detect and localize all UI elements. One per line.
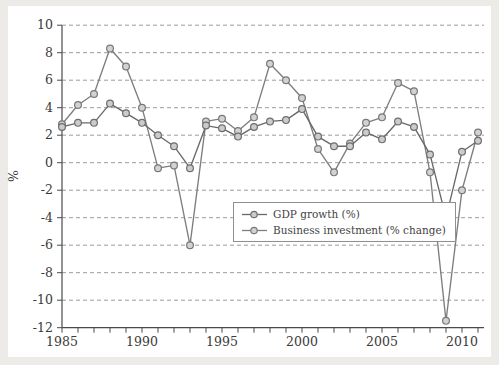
legend-label: Business investment (% change) bbox=[273, 224, 446, 236]
data-point-gdp-growth bbox=[347, 143, 354, 150]
legend-item-gdp-growth: GDP growth (%) bbox=[241, 207, 446, 221]
data-point-business-investment bbox=[459, 187, 466, 194]
data-point-gdp-growth bbox=[123, 110, 130, 117]
data-point-gdp-growth bbox=[363, 129, 370, 136]
data-point-gdp-growth bbox=[395, 118, 402, 125]
svg-text:10: 10 bbox=[37, 17, 53, 32]
data-point-business-investment bbox=[379, 114, 386, 121]
data-point-business-investment bbox=[91, 91, 98, 98]
data-point-business-investment bbox=[427, 169, 434, 176]
svg-text:2005: 2005 bbox=[366, 334, 398, 349]
svg-text:0: 0 bbox=[45, 155, 53, 170]
svg-text:2000: 2000 bbox=[286, 334, 318, 349]
data-point-business-investment bbox=[331, 169, 338, 176]
y-axis-label: % bbox=[6, 166, 26, 186]
data-point-gdp-growth bbox=[315, 133, 322, 140]
data-point-gdp-growth bbox=[91, 119, 98, 126]
data-point-gdp-growth bbox=[411, 124, 418, 131]
data-point-gdp-growth bbox=[267, 118, 274, 125]
data-point-business-investment bbox=[75, 102, 82, 109]
data-point-business-investment bbox=[155, 165, 162, 172]
data-point-gdp-growth bbox=[107, 100, 114, 107]
svg-text:4: 4 bbox=[45, 100, 53, 115]
data-point-business-investment bbox=[251, 114, 258, 121]
data-point-gdp-growth bbox=[203, 122, 210, 129]
data-point-business-investment bbox=[395, 80, 402, 87]
svg-text:1985: 1985 bbox=[46, 334, 78, 349]
svg-text:-12: -12 bbox=[33, 320, 53, 335]
data-point-business-investment bbox=[411, 88, 418, 95]
data-point-business-investment bbox=[123, 63, 130, 70]
svg-text:6: 6 bbox=[45, 72, 53, 87]
svg-text:1990: 1990 bbox=[126, 334, 158, 349]
data-point-gdp-growth bbox=[235, 133, 242, 140]
svg-text:2: 2 bbox=[45, 127, 53, 142]
data-point-business-investment bbox=[475, 129, 482, 136]
legend-item-business-investment: Business investment (% change) bbox=[241, 223, 446, 237]
data-point-gdp-growth bbox=[475, 137, 482, 144]
data-point-business-investment bbox=[443, 317, 450, 324]
chart-legend: GDP growth (%) Business investment (% ch… bbox=[233, 202, 456, 242]
chart-canvas: 1086420-2-4-6-8-10-121985199019952000200… bbox=[0, 0, 499, 365]
data-point-business-investment bbox=[363, 119, 370, 126]
data-point-gdp-growth bbox=[299, 106, 306, 113]
svg-text:-10: -10 bbox=[33, 292, 53, 307]
series-business-investment bbox=[59, 45, 482, 324]
svg-text:-6: -6 bbox=[41, 237, 53, 252]
legend-line-marker-icon bbox=[241, 209, 268, 220]
data-point-gdp-growth bbox=[139, 119, 146, 126]
data-point-gdp-growth bbox=[155, 132, 162, 139]
data-point-gdp-growth bbox=[331, 143, 338, 150]
data-point-business-investment bbox=[139, 104, 146, 111]
svg-text:1995: 1995 bbox=[206, 334, 238, 349]
data-point-gdp-growth bbox=[427, 151, 434, 158]
figure: 1086420-2-4-6-8-10-121985199019952000200… bbox=[0, 0, 499, 365]
data-point-gdp-growth bbox=[283, 117, 290, 124]
data-point-business-investment bbox=[283, 77, 290, 84]
data-point-business-investment bbox=[219, 115, 226, 122]
data-point-business-investment bbox=[171, 162, 178, 169]
data-point-gdp-growth bbox=[219, 125, 226, 132]
svg-text:-4: -4 bbox=[41, 210, 53, 225]
data-point-business-investment bbox=[267, 60, 274, 67]
svg-text:2010: 2010 bbox=[446, 334, 478, 349]
data-point-gdp-growth bbox=[75, 119, 82, 126]
axes bbox=[62, 25, 484, 328]
data-point-business-investment bbox=[187, 242, 194, 249]
data-point-business-investment bbox=[107, 45, 114, 52]
data-point-business-investment bbox=[299, 95, 306, 102]
axis-tick-labels: 1086420-2-4-6-8-10-121985199019952000200… bbox=[33, 17, 478, 348]
data-point-gdp-growth bbox=[187, 165, 194, 172]
data-point-gdp-growth bbox=[59, 124, 66, 131]
legend-label: GDP growth (%) bbox=[273, 208, 360, 220]
legend-line-marker-icon bbox=[241, 225, 268, 236]
data-point-gdp-growth bbox=[251, 124, 258, 131]
data-point-gdp-growth bbox=[171, 143, 178, 150]
data-point-gdp-growth bbox=[459, 148, 466, 155]
data-point-gdp-growth bbox=[379, 136, 386, 143]
svg-text:-8: -8 bbox=[41, 265, 53, 280]
data-point-business-investment bbox=[315, 146, 322, 153]
svg-text:-2: -2 bbox=[41, 182, 53, 197]
svg-text:8: 8 bbox=[45, 45, 53, 60]
